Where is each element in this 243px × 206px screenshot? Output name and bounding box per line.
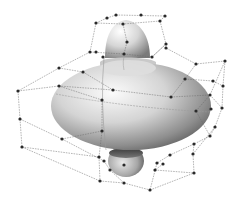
control-point [111, 88, 114, 91]
control-point [114, 13, 117, 16]
lattice-edge [18, 86, 59, 91]
control-point [105, 16, 108, 19]
control-point [221, 84, 224, 87]
control-point [18, 117, 21, 120]
control-point [20, 145, 23, 148]
lattice-edge [222, 86, 223, 108]
control-point [102, 159, 105, 162]
lattice-edge [160, 21, 166, 44]
control-point [101, 55, 104, 58]
control-point [183, 77, 186, 80]
control-point [169, 95, 172, 98]
control-point [16, 89, 19, 92]
control-point [158, 19, 161, 22]
lattice-edge [215, 108, 222, 127]
control-point [121, 22, 124, 25]
control-point [150, 55, 153, 58]
control-point [94, 21, 97, 24]
control-point [97, 155, 100, 158]
lattice-edge [59, 68, 83, 72]
lattice-edge [150, 163, 157, 190]
lattice-edge [196, 61, 225, 64]
control-point [164, 42, 167, 45]
control-point [191, 152, 194, 155]
lattice-edge [124, 183, 150, 190]
lattice-edge [90, 23, 96, 52]
control-point [88, 50, 91, 53]
control-point [192, 171, 195, 174]
control-point [208, 93, 211, 96]
lattice-edge [20, 119, 62, 139]
control-point [98, 179, 101, 182]
control-point [163, 14, 166, 17]
lattice-edge [223, 61, 225, 86]
lattice-edge [99, 157, 100, 181]
control-point [194, 62, 197, 65]
control-point [223, 59, 226, 62]
control-point [57, 66, 60, 69]
control-point [57, 84, 60, 87]
control-point [139, 13, 142, 16]
control-point [155, 161, 158, 164]
control-point [122, 52, 125, 55]
lattice-edge [170, 144, 194, 155]
control-point [164, 46, 167, 49]
control-point [168, 153, 171, 156]
control-point [209, 107, 212, 110]
control-point [148, 188, 151, 191]
control-point [161, 162, 164, 165]
control-point [213, 125, 216, 128]
lattice-edge [155, 170, 194, 173]
control-point [153, 168, 156, 171]
control-point [100, 98, 103, 101]
lattice-edge [166, 48, 196, 64]
control-point [60, 137, 63, 140]
lattice-edge [210, 95, 222, 108]
lattice-edge [22, 147, 99, 157]
control-point [122, 181, 125, 184]
control-point [125, 40, 128, 43]
torus-body [51, 55, 211, 150]
lattice-edge [59, 52, 90, 68]
lattice-edge [150, 173, 194, 190]
control-point [194, 109, 197, 112]
control-point [108, 168, 111, 171]
lattice-edge [20, 119, 22, 147]
control-point [100, 129, 103, 132]
subdivision-surface-figure [0, 0, 243, 206]
control-point [192, 142, 195, 145]
lattice-edge [152, 44, 166, 57]
lattice-edge [193, 154, 194, 173]
lattice-edge [18, 68, 59, 91]
control-point [81, 70, 84, 73]
lattice-edge [100, 181, 124, 183]
control-point [94, 50, 97, 53]
control-point [211, 79, 214, 82]
control-point [220, 106, 223, 109]
control-point [208, 134, 211, 137]
lattice-edge [157, 155, 170, 163]
lattice-edge [18, 91, 20, 119]
lattice-edge [96, 18, 107, 23]
control-point [122, 163, 125, 166]
